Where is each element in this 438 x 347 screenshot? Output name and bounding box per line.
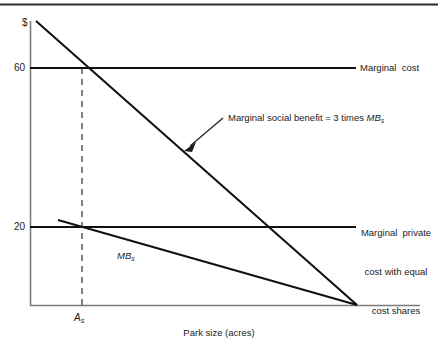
marginal-social-benefit-annotation-text: Marginal social benefit = 3 times <box>228 112 367 123</box>
x-tick-label-as-sub: s <box>81 316 85 325</box>
economics-diagram-figure: $ 60 20 As Park size (acres) Marginal co… <box>0 0 438 347</box>
marginal-cost-label: Marginal cost <box>360 62 419 74</box>
mbs-curve-label-sub: s <box>131 255 134 262</box>
marginal-private-cost-label-line1: Marginal private <box>356 226 436 239</box>
msb-symbol-sub: s <box>381 117 384 124</box>
mbs-curve-label-main: MB <box>117 250 131 261</box>
mbs-curve-label: MBs <box>117 250 135 263</box>
marginal-social-benefit-annotation: Marginal social benefit = 3 times MBs <box>228 112 384 125</box>
y-tick-label-60: 60 <box>14 62 25 74</box>
x-tick-label-as-main: A <box>74 312 81 323</box>
mbs-line <box>58 220 357 305</box>
y-tick-label-20: 20 <box>14 221 25 233</box>
msb-symbol: MB <box>367 112 381 123</box>
marginal-social-benefit-line <box>36 21 357 305</box>
x-tick-label-as: As <box>74 312 84 325</box>
msb-annotation-arrow <box>184 118 223 152</box>
marginal-private-cost-label: Marginal private cost with equal cost sh… <box>356 200 436 343</box>
y-axis-unit-label: $ <box>22 17 28 29</box>
marginal-private-cost-label-line2: cost with equal <box>356 265 436 278</box>
marginal-private-cost-label-line3: cost shares <box>356 304 436 317</box>
